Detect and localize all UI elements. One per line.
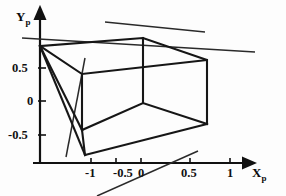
y-tick-label--0-5: -0.5 [8,129,28,142]
box-edge-bottom-front [85,124,207,155]
box-inner-bottom-face [82,103,207,130]
y-axis-label-base: Y [16,9,25,24]
x-tick-label-0-5: 0.5 [181,167,197,180]
ray-2-line [105,22,205,32]
y-tick-label-0: 0 [27,95,33,108]
y-tick-label-0-5: 0.5 [12,62,28,75]
x-tick-label--1: -1 [85,167,95,180]
x-axis-label: Xp [252,166,266,183]
x-tick-label-1: 1 [227,167,233,180]
x-tick-label-0: 0 [138,167,144,180]
y-axis-label: Yp [16,10,30,27]
figure-root: -1 -0.5 0 0.5 1 0.5 0 -0.5 Yp Xp [0,0,286,196]
x-tick-label--0-5: -0.5 [113,167,133,180]
y-axis-label-sub: p [25,17,30,27]
x-axis-label-sub: p [261,173,266,183]
x-axis-label-base: X [252,165,261,180]
box-edge-left-diagonal [40,46,85,155]
